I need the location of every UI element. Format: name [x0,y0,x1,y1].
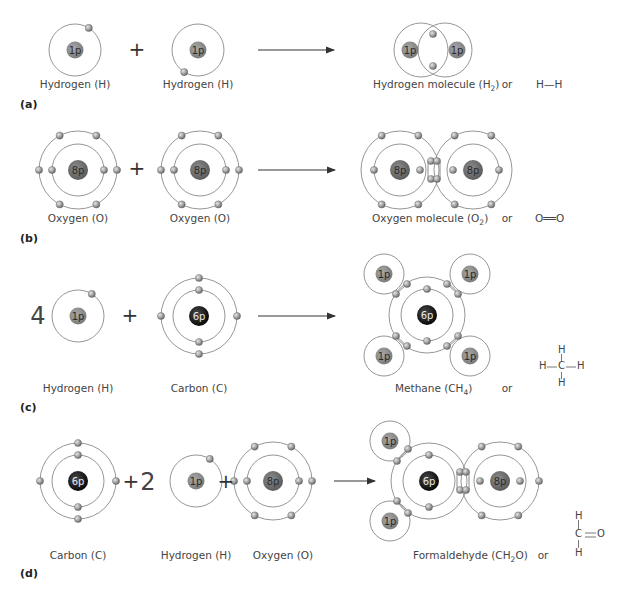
reactant-label-oxygen-2: Oxygen (O) [170,212,230,224]
struct-h-bottom: H [558,377,566,388]
electron [488,132,495,139]
electron [222,166,229,173]
product-name: Formaldehyde (CH [413,549,511,561]
reactant-label-oxygen-1: Oxygen (O) [48,212,108,224]
electron [74,503,81,510]
product-name: Oxygen molecule (O [372,212,479,224]
electron [35,166,42,173]
coefficient-4: 4 [30,302,45,330]
nucleus-label: 1p [451,45,464,56]
structural-formula-h2: H—H [536,78,562,90]
electron [56,201,63,208]
panel-label-b: (b) [20,232,38,245]
reactant-label-carbon: Carbon (C) [171,382,228,394]
electron [235,166,242,173]
plus-sign: + [218,469,235,493]
struct-h-left: H [539,360,547,371]
struct-c-center: C [575,528,582,539]
struct-c-center: C [558,360,565,371]
plus-sign: + [129,156,146,180]
electron [451,132,458,139]
product-label-formaldehyde: Formaldehyde (CH2O) [413,549,528,564]
electron [93,132,100,139]
electron [178,201,185,208]
nucleus-label: 1p [190,476,203,487]
electron [251,443,258,450]
product-label-oxygen-molecule: Oxygen molecule (O2) [372,212,488,227]
electron [429,62,436,69]
electron [392,290,399,297]
reactant-label-oxygen: Oxygen (O) [253,549,313,561]
electron [404,509,411,516]
nucleus-label: 1p [192,45,205,56]
product-name: Methane (CH [395,382,464,394]
electron [56,132,63,139]
electron [74,439,81,446]
product-close: ) [484,212,488,224]
electron [488,201,495,208]
electron [157,166,164,173]
electron [85,24,92,31]
nucleus-label: 8p [267,476,280,487]
electron [449,166,456,173]
electron [195,286,202,293]
electron [233,312,240,319]
electron [443,280,450,287]
nucleus-label: 1p [464,269,477,280]
electron [425,451,432,458]
panel-label-a: (a) [20,98,37,111]
nucleus-label: 8p [194,165,207,176]
product-label-methane: Methane (CH4) [395,382,472,397]
electron [243,477,250,484]
plus-sign: + [129,37,146,61]
electron [74,451,81,458]
plus-sign: + [122,303,139,327]
nucleus-label: 1p [384,436,397,447]
structural-formula-o2: O══O [535,212,564,224]
reactant-label-hydrogen-1: Hydrogen (H) [40,78,111,90]
struct-h-top: H [558,344,566,355]
electron [195,350,202,357]
electron [157,312,164,319]
plus-sign: + [123,469,140,493]
struct-h-bottom: H [575,547,583,558]
electron [378,132,385,139]
electron [74,515,81,522]
electron [308,477,315,484]
panel-label-d: (d) [20,567,38,580]
electron [93,201,100,208]
electron [443,342,450,349]
electron [404,445,411,452]
electron [515,512,522,519]
electron [392,332,399,339]
electron [393,497,400,504]
electron [113,166,120,173]
product-label-hydrogen-molecule: Hydrogen molecule (H2) [373,78,499,93]
nucleus-label: 6p [421,310,434,321]
or-label: or [538,549,549,561]
nucleus-label: 8p [72,165,85,176]
electron [170,166,177,173]
electron [48,166,55,173]
electron [478,512,485,519]
electron [423,337,430,344]
electron [425,503,432,510]
coefficient-2: 2 [140,468,155,496]
or-label: or [502,382,513,394]
electron [370,166,377,173]
electron [36,477,43,484]
electron [454,290,461,297]
nucleus-label: 1p [69,45,82,56]
electron [378,201,385,208]
electron [515,443,522,450]
electron [403,342,410,349]
electron [206,455,213,462]
electron [88,290,95,297]
nucleus-label: 1p [72,311,85,322]
electron [535,477,542,484]
electron [215,132,222,139]
reactant-label-hydrogen: Hydrogen (H) [43,382,114,394]
nucleus-label: 1p [384,516,397,527]
electron [429,30,436,37]
electron [181,68,188,75]
